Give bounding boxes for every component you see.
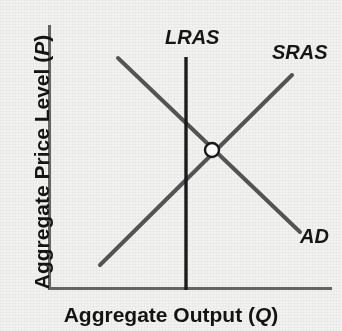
- y-axis-label-suffix: ): [30, 35, 53, 42]
- x-axis-label-symbol: Q: [255, 303, 271, 326]
- x-axis-label-prefix: Aggregate Output (: [64, 303, 255, 326]
- y-axis-label-symbol: P: [30, 42, 53, 56]
- sras-curve: [100, 75, 292, 265]
- y-axis-label: Aggregate Price Level (P): [30, 32, 54, 292]
- x-axis-label: Aggregate Output (Q): [0, 303, 342, 327]
- ad-curve-label: AD: [300, 225, 329, 248]
- x-axis-label-suffix: ): [271, 303, 278, 326]
- y-axis-label-prefix: Aggregate Price Level (: [30, 56, 53, 289]
- sras-curve-label: SRAS: [272, 41, 328, 64]
- lras-curve-label: LRAS: [165, 26, 219, 49]
- ad-as-macroeconomic-diagram: LRAS SRAS AD Aggregate Price Level (P) A…: [0, 0, 342, 331]
- equilibrium-point-marker: [205, 143, 219, 157]
